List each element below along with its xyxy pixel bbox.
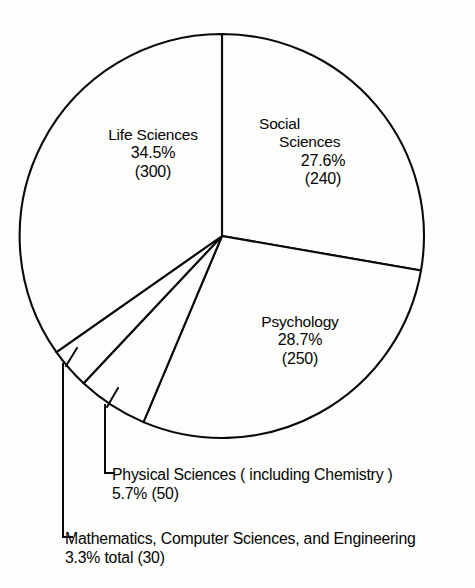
- callout-label-mathematics-value: 3.3% total (30): [65, 549, 470, 568]
- callout-label-physical-sciences: Physical Sciences ( including Chemistry …: [112, 466, 472, 503]
- slice-label-social-sciences-name-1: Social: [253, 115, 393, 133]
- callout-label-physical-sciences-name: Physical Sciences ( including Chemistry …: [112, 466, 472, 485]
- slice-label-psychology-name: Psychology: [225, 313, 375, 331]
- slice-label-social-sciences-value: (240): [253, 170, 393, 189]
- slice-label-social-sciences: Social Sciences 27.6% (240): [253, 115, 393, 189]
- slice-label-life-sciences-percent: 34.5%: [73, 144, 233, 163]
- slice-label-psychology-value: (250): [225, 350, 375, 369]
- slice-label-life-sciences-name: Life Sciences: [73, 126, 233, 144]
- callout-label-mathematics: Mathematics, Computer Sciences, and Engi…: [65, 530, 470, 567]
- slice-label-psychology: Psychology 28.7% (250): [225, 313, 375, 369]
- slice-label-life-sciences: Life Sciences 34.5% (300): [73, 126, 233, 182]
- slice-label-social-sciences-name-2: Sciences: [253, 133, 393, 151]
- callout-leader-mathematics: [63, 364, 72, 537]
- pie-chart-figure: Life Sciences 34.5% (300) Social Science…: [0, 0, 475, 588]
- slice-label-social-sciences-percent: 27.6%: [253, 152, 393, 171]
- callout-leader-physical-sciences: [105, 405, 114, 473]
- slice-label-psychology-percent: 28.7%: [225, 331, 375, 350]
- callout-label-physical-sciences-value: 5.7% (50): [112, 485, 472, 504]
- slice-label-life-sciences-value: (300): [73, 163, 233, 182]
- callout-label-mathematics-name: Mathematics, Computer Sciences, and Engi…: [65, 530, 470, 549]
